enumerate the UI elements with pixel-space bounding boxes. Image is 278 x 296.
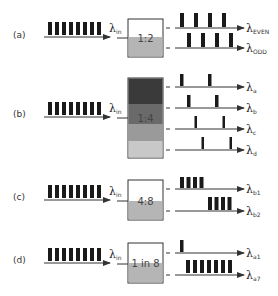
output-label-a: λa xyxy=(246,81,257,94)
output-pulses-even xyxy=(180,13,226,27)
input-lambda: λin xyxy=(109,22,122,35)
panel-b: (b) λin 1:4 λa λb xyxy=(13,74,257,158)
output-pulses-b xyxy=(187,95,219,107)
output-pulses-a1 xyxy=(180,240,184,252)
demux-diagram: (a) λin 1:2 λEVEN λODD xyxy=(0,0,278,296)
panel-label: (b) xyxy=(13,109,26,119)
splitter-box: 1:4 xyxy=(128,78,163,158)
output-pulses-d xyxy=(202,137,233,149)
input-pulse-train xyxy=(48,185,101,198)
output-pulses-a xyxy=(180,74,212,86)
output-label-b2: λb2 xyxy=(246,205,261,218)
input-lambda: λin xyxy=(109,185,122,198)
splitter-box: 1 in 8 xyxy=(128,243,163,283)
panel-c: (c) λin 4:8 λb1 λb2 xyxy=(13,177,261,220)
splitter-box: 1:2 xyxy=(128,19,163,57)
input-pulse-train xyxy=(48,22,101,35)
output-pulses-b2 xyxy=(208,197,232,210)
panel-a: (a) λin 1:2 λEVEN λODD xyxy=(13,13,269,57)
splitter-box: 4:8 xyxy=(128,180,163,220)
output-label-a7: λa7 xyxy=(246,269,261,282)
input-pulse-train xyxy=(48,102,101,115)
output-label-b1: λb1 xyxy=(246,183,261,196)
input-pulse-train xyxy=(48,248,101,261)
output-pulses-c xyxy=(195,116,226,128)
output-label-d: λd xyxy=(246,144,257,157)
panel-d: (d) λin 1 in 8 λa1 λa7 xyxy=(13,240,261,283)
panel-label: (d) xyxy=(13,255,26,265)
input-lambda: λin xyxy=(109,248,122,261)
panel-label: (c) xyxy=(13,192,25,202)
ratio-label: 1:2 xyxy=(137,33,153,44)
output-pulses-odd xyxy=(187,33,233,47)
ratio-label: 4:8 xyxy=(137,196,153,207)
output-label-a1: λa1 xyxy=(246,247,261,260)
output-pulses-a7 xyxy=(186,260,232,273)
ratio-label: 1 in 8 xyxy=(131,258,159,269)
input-lambda: λin xyxy=(109,102,122,115)
output-label-odd: λODD xyxy=(246,42,267,55)
output-label-c: λc xyxy=(246,123,256,136)
panel-label: (a) xyxy=(13,30,26,40)
output-label-even: λEVEN xyxy=(246,22,269,35)
ratio-label: 1:4 xyxy=(137,113,153,124)
output-pulses-b1 xyxy=(180,177,204,188)
output-label-b: λb xyxy=(246,102,257,115)
